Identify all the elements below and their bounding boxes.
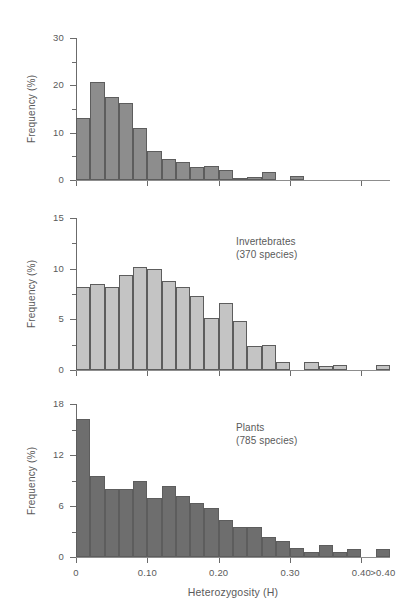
histogram-bar bbox=[105, 97, 119, 180]
x-axis-tick bbox=[76, 181, 77, 186]
histogram-bar bbox=[247, 177, 262, 180]
histogram-bar bbox=[304, 362, 319, 370]
x-axis-baseline bbox=[76, 370, 390, 371]
y-axis-tick bbox=[70, 38, 76, 39]
y-axis-tick-label: 18 bbox=[30, 398, 64, 409]
histogram-bar bbox=[376, 365, 390, 370]
histogram-bar bbox=[147, 151, 162, 180]
x-axis-tick bbox=[76, 371, 77, 376]
histogram-panel-invertebrates: 051015Frequency (%)Invertebrates(370 spe… bbox=[0, 200, 408, 390]
histogram-bar bbox=[219, 520, 233, 557]
x-axis-baseline bbox=[76, 180, 390, 181]
histogram-bar bbox=[76, 419, 90, 557]
y-axis-tick bbox=[70, 218, 76, 219]
histogram-bar bbox=[276, 362, 290, 370]
series-label: Plants(785 species) bbox=[236, 422, 297, 447]
y-axis-tick-label: 30 bbox=[30, 32, 64, 43]
histogram-bar bbox=[219, 303, 233, 370]
x-axis-tick bbox=[147, 371, 148, 376]
histogram-panel-vertebrates: 0102030Frequency (%) bbox=[0, 0, 408, 200]
x-axis-tick bbox=[361, 181, 362, 186]
histogram-bar bbox=[133, 128, 147, 180]
histogram-bar bbox=[333, 365, 347, 370]
series-label-count: (370 species) bbox=[236, 249, 297, 262]
x-axis-tick-label: 0.10 bbox=[122, 567, 172, 578]
histogram-bar bbox=[147, 498, 162, 558]
y-axis-minor-tick bbox=[72, 109, 76, 110]
y-axis-tick-label: 0 bbox=[30, 364, 64, 375]
x-axis-tick bbox=[219, 371, 220, 376]
histogram-bar bbox=[247, 346, 262, 370]
x-axis-tick bbox=[219, 558, 220, 563]
histogram-bar bbox=[276, 541, 290, 557]
histogram-bar bbox=[176, 496, 190, 557]
y-axis-title: Frequency (%) bbox=[26, 75, 37, 143]
histogram-bar bbox=[219, 170, 233, 180]
histogram-bar bbox=[262, 537, 276, 557]
histogram-bar bbox=[119, 489, 133, 557]
series-label-name: Plants bbox=[236, 422, 297, 435]
histogram-bar bbox=[233, 321, 247, 370]
series-label: Invertebrates(370 species) bbox=[236, 236, 297, 261]
histogram-bar bbox=[262, 345, 276, 370]
histogram-bar bbox=[204, 166, 219, 180]
y-axis-tick-label: 0 bbox=[30, 551, 64, 562]
histogram-bar bbox=[133, 481, 147, 558]
histogram-bar bbox=[262, 172, 276, 180]
x-axis-tick-label: 0.20 bbox=[194, 567, 244, 578]
x-axis-tick bbox=[219, 181, 220, 186]
x-axis-tick bbox=[290, 181, 291, 186]
x-axis-tick bbox=[147, 181, 148, 186]
series-label-name: Invertebrates bbox=[236, 236, 297, 249]
heterozygosity-histogram-figure: 0102030Frequency (%) 051015Frequency (%)… bbox=[0, 0, 408, 615]
histogram-bar bbox=[162, 159, 176, 180]
histogram-bar bbox=[290, 176, 304, 180]
histogram-bar bbox=[176, 162, 190, 180]
histogram-bar bbox=[119, 103, 133, 180]
x-axis-tick bbox=[361, 558, 362, 563]
histogram-bar bbox=[90, 476, 105, 557]
histogram-bar bbox=[233, 527, 247, 557]
histogram-bar bbox=[304, 552, 319, 557]
y-axis-tick-label: 0 bbox=[30, 174, 64, 185]
histogram-bar bbox=[333, 552, 347, 557]
y-axis-minor-tick bbox=[72, 62, 76, 63]
histogram-bar bbox=[162, 486, 176, 557]
histogram-bar bbox=[247, 527, 262, 557]
histogram-bar bbox=[319, 545, 333, 557]
histogram-bar bbox=[204, 508, 219, 557]
histogram-panel-plants: 061218Frequency (%)Plants(785 species)00… bbox=[0, 390, 408, 615]
y-axis-tick bbox=[70, 85, 76, 86]
histogram-bar bbox=[105, 489, 119, 557]
x-axis-tick bbox=[76, 558, 77, 563]
y-axis-minor-tick bbox=[72, 243, 76, 244]
histogram-bar bbox=[90, 82, 105, 180]
histogram-bar bbox=[376, 549, 390, 557]
histogram-bar bbox=[204, 318, 219, 370]
histogram-bar bbox=[290, 548, 304, 557]
histogram-bar bbox=[147, 269, 162, 370]
histogram-bar bbox=[233, 178, 247, 180]
histogram-bar bbox=[347, 549, 361, 557]
y-axis-tick-label: 15 bbox=[30, 212, 64, 223]
y-axis-title: Frequency (%) bbox=[26, 446, 37, 514]
histogram-bar bbox=[176, 287, 190, 370]
x-axis-tick bbox=[290, 371, 291, 376]
histogram-bar bbox=[162, 281, 176, 370]
series-label-count: (785 species) bbox=[236, 435, 297, 448]
histogram-bar bbox=[76, 287, 90, 370]
histogram-bar bbox=[319, 366, 333, 370]
x-axis-tick-label: 0 bbox=[51, 567, 101, 578]
y-axis-tick bbox=[70, 404, 76, 405]
histogram-bar bbox=[133, 267, 147, 370]
x-axis-tick-label: >0.40 bbox=[358, 567, 408, 578]
x-axis-baseline bbox=[76, 557, 390, 558]
histogram-bar bbox=[190, 296, 204, 370]
histogram-bar bbox=[119, 275, 133, 370]
x-axis-title: Heterozygosity (H) bbox=[76, 586, 390, 598]
x-axis-tick bbox=[147, 558, 148, 563]
x-axis-tick bbox=[361, 371, 362, 376]
x-axis-tick bbox=[290, 558, 291, 563]
histogram-bar bbox=[190, 503, 204, 557]
histogram-bar bbox=[105, 287, 119, 370]
